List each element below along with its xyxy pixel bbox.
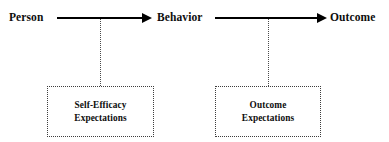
- box-label-line-1: Self-Efficacy: [75, 99, 127, 112]
- self-efficacy-outcome-diagram: Person Behavior Outcome Self-Efficacy Ex…: [0, 0, 389, 142]
- connector-line-self-efficacy: [100, 19, 101, 86]
- box-label-line-1: Outcome: [250, 99, 287, 112]
- node-label-behavior: Behavior: [157, 12, 203, 24]
- arrow-head: [317, 13, 327, 23]
- connector-line-outcome-expectations: [268, 19, 269, 86]
- arrow-head: [142, 13, 152, 23]
- box-label-line-2: Expectations: [242, 112, 294, 125]
- arrow-person-to-behavior-icon: [57, 12, 152, 24]
- arrow-shaft: [215, 17, 318, 20]
- box-label-line-2: Expectations: [74, 112, 126, 125]
- node-label-person: Person: [9, 12, 43, 24]
- arrow-behavior-to-outcome-icon: [215, 12, 327, 24]
- node-label-outcome: Outcome: [330, 12, 375, 24]
- box-outcome-expectations: Outcome Expectations: [215, 86, 321, 137]
- box-self-efficacy-expectations: Self-Efficacy Expectations: [47, 86, 154, 137]
